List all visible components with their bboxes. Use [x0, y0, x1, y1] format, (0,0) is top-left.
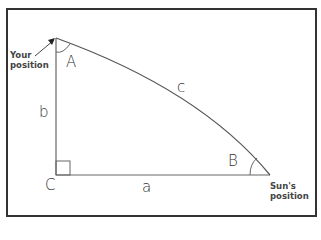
- angle-arc-b: [250, 158, 257, 175]
- vertex-c-label: C: [45, 178, 55, 193]
- vertex-a-label: A: [66, 55, 76, 70]
- your-position-line2: position: [10, 61, 49, 71]
- side-a-label: a: [142, 180, 151, 195]
- your-position-label: Your position: [10, 51, 49, 71]
- angle-arc-a: [56, 44, 70, 52]
- vertex-b-label: B: [228, 154, 238, 169]
- side-c-label: c: [177, 80, 185, 95]
- right-angle-marker: [56, 161, 70, 175]
- sun-position-label: Sun's position: [270, 182, 309, 202]
- side-c: [56, 38, 270, 175]
- side-b-label: b: [39, 105, 49, 120]
- sun-position-line2: position: [270, 192, 309, 202]
